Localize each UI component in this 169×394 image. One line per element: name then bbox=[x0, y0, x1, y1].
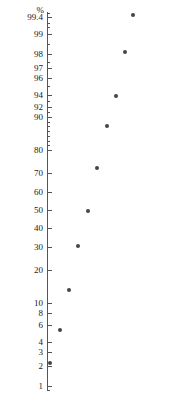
data-point bbox=[86, 209, 90, 213]
probability-plot-figure: % 99.49998979694929080706050403020108643… bbox=[0, 0, 169, 394]
data-point bbox=[114, 94, 118, 98]
data-point bbox=[131, 13, 135, 17]
scatter-series bbox=[0, 0, 169, 394]
data-point bbox=[48, 361, 52, 365]
data-point bbox=[58, 328, 62, 332]
data-point bbox=[95, 166, 99, 170]
data-point bbox=[76, 244, 80, 248]
data-point bbox=[105, 124, 109, 128]
data-point bbox=[123, 50, 127, 54]
data-point bbox=[67, 288, 71, 292]
